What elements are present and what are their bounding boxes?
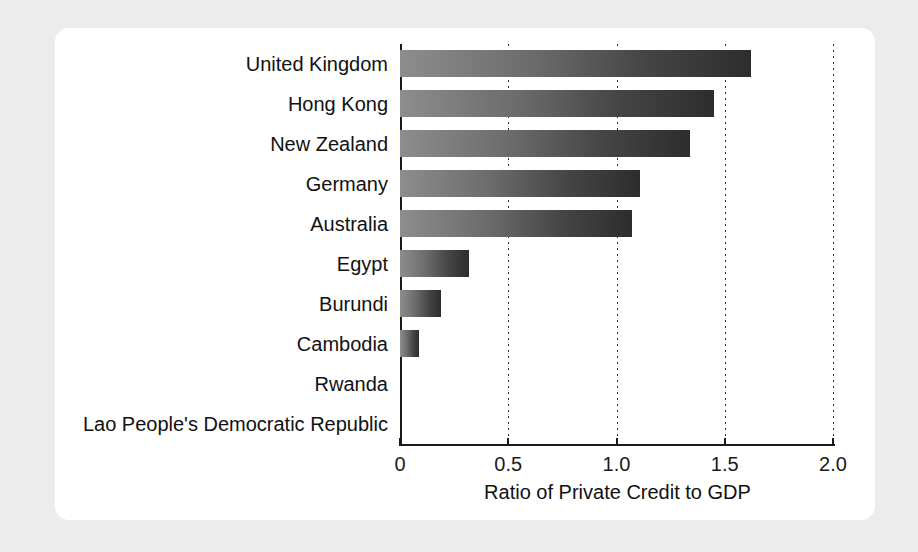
figure-card: 00.51.01.52.0 United KingdomHong KongNew…: [55, 28, 875, 520]
category-label: Cambodia: [297, 332, 388, 356]
x-tick-label: 0: [370, 452, 430, 476]
category-label: Germany: [306, 172, 388, 196]
bar[interactable]: [400, 250, 469, 277]
x-axis-title: Ratio of Private Credit to GDP: [400, 480, 835, 504]
bar-row[interactable]: Germany: [400, 164, 833, 204]
x-tick-label: 1.5: [695, 452, 755, 476]
bar-row[interactable]: United Kingdom: [400, 44, 833, 84]
bar-row[interactable]: New Zealand: [400, 124, 833, 164]
bar[interactable]: [400, 170, 640, 197]
bar-row[interactable]: Rwanda: [400, 364, 833, 404]
bar[interactable]: [400, 290, 441, 317]
category-label: Lao People's Democratic Republic: [83, 412, 388, 436]
x-tick-label: 0.5: [478, 452, 538, 476]
bar[interactable]: [400, 50, 751, 77]
category-label: New Zealand: [270, 132, 388, 156]
bar-row[interactable]: Burundi: [400, 284, 833, 324]
bar[interactable]: [400, 130, 690, 157]
x-tick-label: 2.0: [803, 452, 863, 476]
bar-row[interactable]: Lao People's Democratic Republic: [400, 404, 833, 444]
category-label: Australia: [310, 212, 388, 236]
plot-area: 00.51.01.52.0 United KingdomHong KongNew…: [400, 44, 833, 444]
bar[interactable]: [400, 210, 632, 237]
bar-row[interactable]: Egypt: [400, 244, 833, 284]
category-label: United Kingdom: [246, 52, 388, 76]
x-tick-label: 1.0: [587, 452, 647, 476]
category-label: Rwanda: [315, 372, 388, 396]
category-label: Egypt: [337, 252, 388, 276]
bar[interactable]: [400, 330, 419, 357]
category-label: Burundi: [319, 292, 388, 316]
bar-row[interactable]: Hong Kong: [400, 84, 833, 124]
bar-chart: 00.51.01.52.0 United KingdomHong KongNew…: [55, 28, 875, 520]
bar-row[interactable]: Cambodia: [400, 324, 833, 364]
bar[interactable]: [400, 90, 714, 117]
category-label: Hong Kong: [288, 92, 388, 116]
gridline: [833, 44, 834, 444]
x-axis-line: [400, 444, 835, 446]
bar-row[interactable]: Australia: [400, 204, 833, 244]
